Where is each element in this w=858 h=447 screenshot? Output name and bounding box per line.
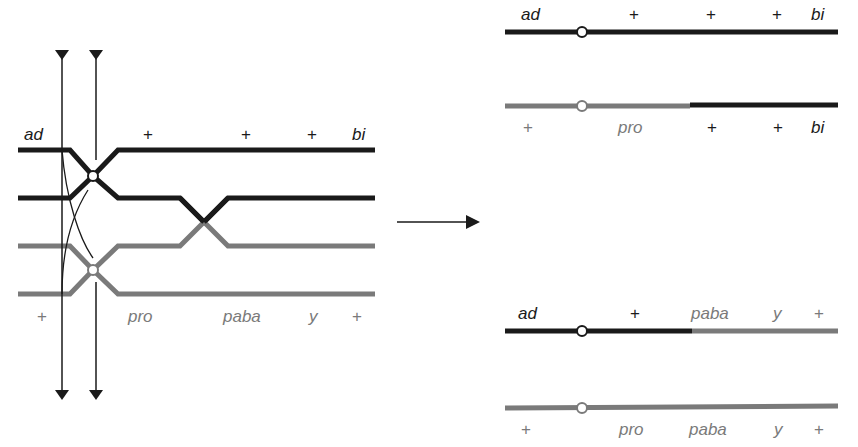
product-1: ad + + + bi + pro + + bi [505, 5, 838, 137]
crossover-dark-segment [204, 198, 228, 222]
label-plus: + [37, 307, 47, 326]
label-plus: + [352, 307, 362, 326]
arrow-right-icon [466, 215, 480, 229]
product-2-bottom-chromosome [505, 406, 838, 408]
label-ad: ad [24, 125, 43, 144]
centromere [577, 403, 587, 413]
label-plus: + [521, 420, 531, 439]
centromere [577, 27, 587, 37]
label-plus: + [630, 304, 640, 323]
recombination-diagram: ad + + + bi + pro paba y + ad + + + bi +… [0, 0, 858, 447]
label-bi: bi [811, 118, 825, 137]
label-y: y [773, 420, 784, 439]
label-y: y [772, 304, 783, 323]
label-y: y [308, 307, 319, 326]
product-2: ad + paba y + + pro paba y + [505, 304, 838, 439]
gray-chromatid-1 [18, 222, 375, 270]
gray-chromatid-2 [18, 270, 375, 294]
label-plus: + [307, 125, 317, 144]
crossover-dark-segment-2 [180, 198, 204, 222]
centromere-top [88, 171, 98, 181]
label-bi: bi [811, 5, 825, 24]
label-pro: pro [617, 118, 643, 137]
label-paba: paba [690, 304, 729, 323]
label-ad: ad [521, 5, 540, 24]
label-paba: paba [688, 420, 727, 439]
transition-arrow [397, 215, 480, 229]
label-paba: paba [222, 307, 261, 326]
left-panel: ad + + + bi + pro paba y + [18, 55, 375, 395]
centromere [577, 101, 587, 111]
label-plus: + [706, 5, 716, 24]
label-pro: pro [127, 307, 153, 326]
label-plus: + [814, 420, 824, 439]
label-plus: + [814, 304, 824, 323]
label-plus: + [241, 125, 251, 144]
label-plus: + [773, 118, 783, 137]
dark-chromatid-1 [18, 150, 375, 176]
label-plus: + [772, 5, 782, 24]
label-plus: + [523, 118, 533, 137]
label-ad: ad [518, 304, 537, 323]
centromere-bottom [88, 265, 98, 275]
label-bi: bi [352, 125, 366, 144]
centromere [577, 326, 587, 336]
label-plus: + [629, 5, 639, 24]
label-plus: + [143, 125, 153, 144]
label-plus: + [707, 118, 717, 137]
label-pro: pro [618, 420, 644, 439]
